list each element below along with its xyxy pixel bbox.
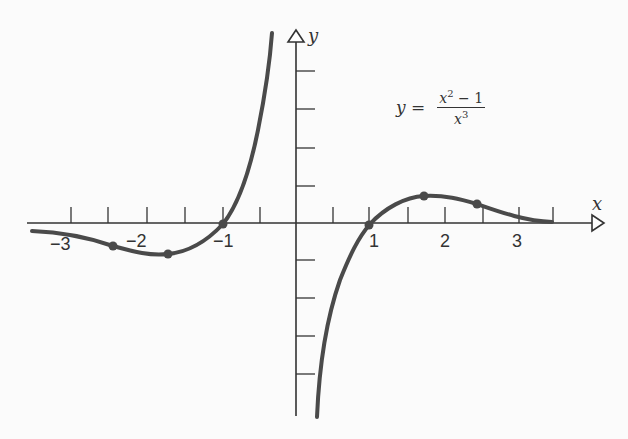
point-inflection-right (473, 200, 482, 209)
curve-right-branch (317, 196, 552, 417)
x-tick-label-2: 2 (440, 231, 450, 251)
x-tick-label-3: 3 (512, 231, 522, 251)
x-axis-arrow-icon (592, 215, 604, 231)
point-zero-pos1 (365, 221, 374, 230)
equation-denominator: x3 (454, 108, 468, 127)
equation-lhs: y = (396, 97, 425, 117)
x-axis-label: x (592, 193, 602, 214)
x-tick-label-1: 1 (369, 231, 379, 251)
equation-numerator: x2 − 1 (437, 88, 485, 108)
point-local-min (164, 250, 173, 259)
function-graph: −3 −2 −1 1 2 3 x y (0, 0, 628, 439)
equation-fraction: x2 − 1 x3 (437, 88, 485, 126)
y-axis-arrow-icon (288, 30, 304, 42)
x-tick-label-neg2: −2 (126, 231, 147, 251)
curve-left-branch (32, 33, 272, 255)
point-inflection-left (109, 242, 118, 251)
point-zero-neg1 (219, 220, 228, 229)
marked-points (109, 192, 482, 259)
x-ticks (71, 207, 553, 223)
point-local-max (420, 192, 429, 201)
y-axis-label: y (307, 25, 319, 46)
x-tick-label-neg3: −3 (50, 234, 71, 254)
function-equation: y = x2 − 1 x3 (396, 88, 485, 126)
x-tick-label-neg1: −1 (213, 231, 234, 251)
